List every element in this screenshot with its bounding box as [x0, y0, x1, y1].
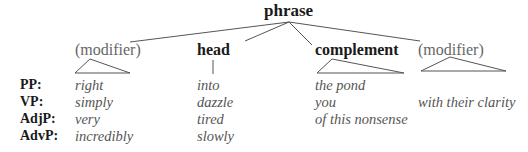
example-head: tired [197, 112, 224, 127]
node-head: head [197, 42, 230, 58]
example-complement: of this nonsense [315, 112, 408, 127]
row-type-label: VP: [20, 95, 43, 109]
example-modifier: simply [75, 95, 113, 110]
row-type-label: AdjP: [20, 112, 56, 126]
example-modifier: very [75, 112, 100, 127]
example-head: slowly [197, 129, 234, 144]
branch-root-to-complement [289, 22, 312, 45]
example-modifier: right [75, 78, 103, 93]
node-modifier-left: (modifier) [75, 42, 141, 58]
branch-root-to-modifier-right [289, 22, 420, 41]
row-type-label: AdvP: [20, 129, 58, 143]
example-complement: the pond [315, 78, 365, 93]
triangle-modifier-left [75, 59, 130, 73]
row-type-label: PP: [20, 78, 42, 92]
example-head: dazzle [197, 95, 233, 110]
example-modifier: incredibly [75, 129, 133, 144]
example-modifier-2: with their clarity [418, 95, 515, 110]
example-head: into [197, 78, 220, 93]
root-node-phrase: phrase [264, 2, 313, 19]
triangle-complement [317, 59, 404, 73]
example-complement: you [315, 95, 336, 110]
node-modifier-right: (modifier) [418, 42, 484, 58]
node-complement: complement [315, 42, 399, 58]
triangle-modifier-right [421, 57, 506, 71]
